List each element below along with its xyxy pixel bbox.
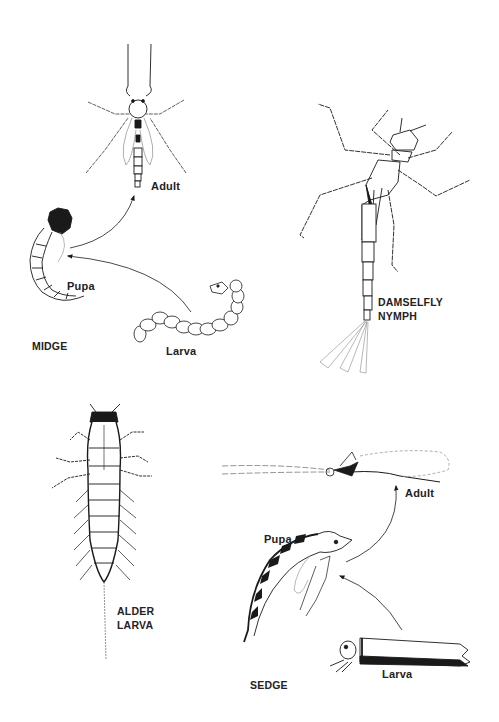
sedge-larva-label: Larva xyxy=(382,668,412,681)
midge-pupa-label: Pupa xyxy=(67,280,95,293)
alder-title-line1: ALDER xyxy=(117,605,154,618)
sedge-larva-illustration xyxy=(330,638,470,672)
damselfly-nymph-illustration xyxy=(300,104,470,373)
midge-arrow-pupa-to-adult xyxy=(70,196,134,248)
damselfly-title-line2: NYMPH xyxy=(378,310,417,323)
sedge-pupa-label: Pupa xyxy=(264,533,292,546)
damselfly-title-line1: DAMSELFLY xyxy=(378,296,443,309)
illustrations xyxy=(0,0,499,722)
sedge-arrow-larva-to-pupa xyxy=(340,576,402,630)
sedge-pupa-illustration xyxy=(244,531,352,642)
sedge-adult-illustration xyxy=(222,451,449,482)
midge-larva-label: Larva xyxy=(166,345,196,358)
midge-adult-illustration xyxy=(86,44,186,187)
insect-life-cycle-plate: Adult Pupa Larva MIDGE DAMSELFLY NYMPH A… xyxy=(0,0,499,722)
alder-title-line2: LARVA xyxy=(117,619,153,632)
midge-larva-illustration xyxy=(134,280,244,342)
midge-adult-label: Adult xyxy=(151,180,180,193)
sedge-adult-label: Adult xyxy=(405,487,434,500)
sedge-title: SEDGE xyxy=(250,679,288,692)
sedge-arrow-pupa-to-adult xyxy=(346,486,396,562)
midge-title: MIDGE xyxy=(32,340,67,353)
